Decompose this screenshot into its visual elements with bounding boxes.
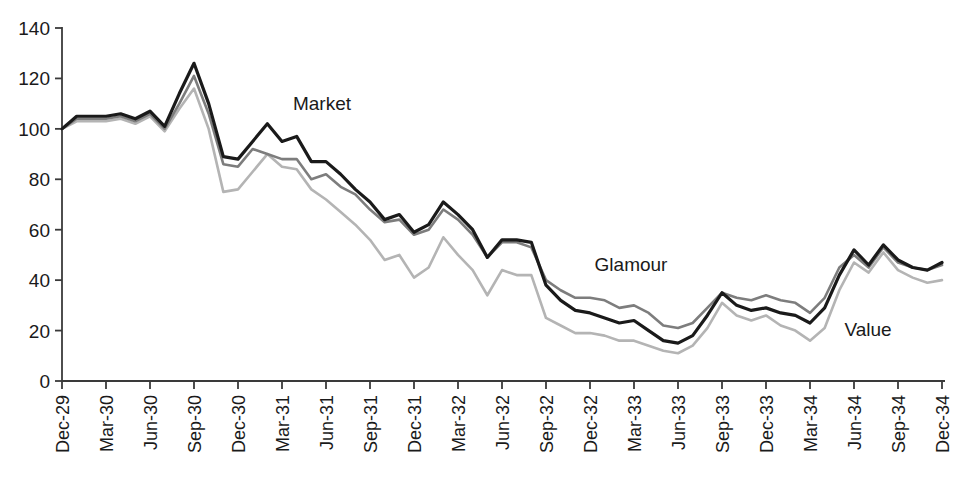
x-axis-tick-label: Dec-32: [581, 395, 601, 453]
y-axis-tick-label: 140: [18, 18, 50, 39]
x-axis-tick-label: Mar-32: [449, 395, 469, 452]
x-axis-tick-label: Sep-32: [537, 395, 557, 453]
x-axis-tick-label: Dec-29: [53, 395, 73, 453]
x-axis-tick-label: Dec-34: [933, 395, 953, 453]
x-axis-tick-label: Mar-33: [625, 395, 645, 452]
series-line-market: [62, 63, 942, 343]
y-axis-tick-label: 40: [29, 270, 50, 291]
y-axis-tick-label: 20: [29, 321, 50, 342]
x-axis-tick-label: Sep-31: [361, 395, 381, 453]
y-axis: 020406080100120140: [18, 18, 62, 392]
chart-canvas: 020406080100120140 Dec-29Mar-30Jun-30Sep…: [0, 0, 979, 479]
line-chart: 020406080100120140 Dec-29Mar-30Jun-30Sep…: [0, 0, 979, 479]
x-axis-tick-label: Sep-34: [889, 395, 909, 453]
y-axis-tick-label: 60: [29, 220, 50, 241]
y-axis-tick-label: 0: [39, 371, 50, 392]
y-axis-tick-label: 80: [29, 169, 50, 190]
series-label-glamour: Glamour: [595, 254, 669, 275]
x-axis-tick-label: Jun-34: [845, 395, 865, 450]
x-axis-tick-label: Mar-30: [97, 395, 117, 452]
x-axis-tick-label: Dec-31: [405, 395, 425, 453]
x-axis-tick-label: Jun-33: [669, 395, 689, 450]
x-axis-tick-label: Mar-31: [273, 395, 293, 452]
x-axis-tick-label: Jun-31: [317, 395, 337, 450]
y-axis-tick-label: 120: [18, 68, 50, 89]
x-axis-tick-label: Jun-30: [141, 395, 161, 450]
x-axis-tick-label: Dec-30: [229, 395, 249, 453]
x-axis-tick-label: Sep-30: [185, 395, 205, 453]
series-label-value: Value: [844, 319, 891, 340]
x-axis-tick-label: Sep-33: [713, 395, 733, 453]
x-axis: Dec-29Mar-30Jun-30Sep-30Dec-30Mar-31Jun-…: [53, 381, 953, 453]
y-axis-tick-label: 100: [18, 119, 50, 140]
series-lines: [62, 63, 942, 353]
x-axis-tick-label: Dec-33: [757, 395, 777, 453]
x-axis-tick-label: Mar-34: [801, 395, 821, 452]
series-line-glamour: [62, 76, 942, 328]
series-label-market: Market: [293, 93, 352, 114]
x-axis-tick-label: Jun-32: [493, 395, 513, 450]
